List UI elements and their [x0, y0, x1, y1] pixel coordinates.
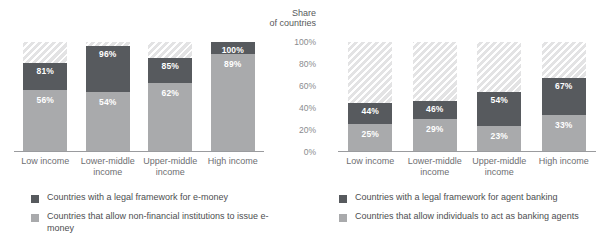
axis-baseline	[338, 151, 596, 152]
bar-value-label: 67%	[542, 82, 586, 91]
legend-item[interactable]: Countries that allow individuals to act …	[338, 211, 606, 223]
bar-group-agent-banking: 44%25%46%29%54%23%67%33%	[338, 42, 596, 151]
category-label: Low income	[341, 156, 400, 178]
y-axis-tick: 0%	[304, 147, 316, 157]
bar-slot: 85%62%	[142, 42, 200, 151]
bar-slot: 54%23%	[470, 42, 529, 151]
bar-segment-upper[interactable]: 96%	[86, 46, 130, 92]
legend-agent-banking: Countries with a legal framework for age…	[338, 192, 606, 230]
y-axis-tick: 40%	[299, 103, 316, 113]
bar-segment-upper[interactable]: 100%	[211, 42, 255, 54]
y-axis-tick: 60%	[299, 81, 316, 91]
bar-segment-lower[interactable]: 29%	[413, 119, 457, 151]
bar-value-label: 56%	[23, 96, 67, 105]
bar-segment-upper[interactable]: 54%	[477, 92, 521, 126]
bar-segment-lower[interactable]: 23%	[477, 126, 521, 151]
bar-value-label: 96%	[86, 50, 130, 59]
chart-panel-e-money: 81%56%96%54%85%62%100%89% Low incomeLowe…	[0, 0, 272, 182]
bar-segment-lower[interactable]: 89%	[211, 54, 255, 151]
bar-segment-remainder	[348, 42, 392, 103]
legend-swatch-icon	[338, 194, 348, 204]
chart-panel-agent-banking: 44%25%46%29%54%23%67%33% Low incomeLower…	[318, 0, 606, 182]
category-labels-agent-banking: Low incomeLower-middle incomeUpper-middl…	[338, 156, 596, 178]
bar-group-e-money: 81%56%96%54%85%62%100%89%	[14, 42, 264, 151]
bar-slot: 81%56%	[17, 42, 75, 151]
category-label: Lower-middle income	[79, 156, 137, 178]
bar-segment-remainder	[413, 42, 457, 101]
bar-segment-lower[interactable]: 54%	[86, 92, 130, 151]
bar-slot: 46%29%	[405, 42, 464, 151]
category-labels-e-money: Low incomeLower-middle incomeUpper-middl…	[14, 156, 264, 178]
bar-value-label: 89%	[211, 60, 255, 69]
category-label: Upper-middle income	[142, 156, 200, 178]
bar-slot: 100%89%	[204, 42, 262, 151]
bar-segment-upper[interactable]: 44%	[348, 103, 392, 124]
stacked-bar[interactable]: 44%25%	[348, 42, 392, 151]
stacked-bar[interactable]: 85%62%	[148, 42, 192, 151]
legend-label: Countries that allow non-financial insti…	[47, 211, 280, 234]
y-axis-tick: 20%	[299, 125, 316, 135]
bar-value-label: 33%	[542, 121, 586, 130]
bar-slot: 44%25%	[341, 42, 400, 151]
bar-value-label: 23%	[477, 132, 521, 141]
stacked-bar[interactable]: 67%33%	[542, 42, 586, 151]
legend-label: Countries that allow individuals to act …	[355, 211, 579, 223]
category-label: Low income	[17, 156, 75, 178]
bar-value-label: 44%	[348, 107, 392, 116]
stacked-bar[interactable]: 46%29%	[413, 42, 457, 151]
bar-value-label: 54%	[86, 98, 130, 107]
stacked-bar[interactable]: 100%89%	[211, 42, 255, 151]
y-axis-tick: 100%	[294, 37, 316, 47]
category-label: Lower-middle income	[405, 156, 464, 178]
category-label: High income	[204, 156, 262, 178]
bar-segment-upper[interactable]: 81%	[23, 63, 67, 90]
y-axis-tick: 80%	[299, 59, 316, 69]
legend-swatch-icon	[30, 194, 40, 204]
bar-segment-lower[interactable]: 56%	[23, 90, 67, 151]
legend-item[interactable]: Countries that allow non-financial insti…	[30, 211, 280, 234]
legend-swatch-icon	[30, 213, 40, 223]
y-axis: Shareof countries 100%80%60%40%20%0%	[262, 0, 318, 182]
legend-swatch-icon	[338, 213, 348, 223]
bar-slot: 96%54%	[79, 42, 137, 151]
chart-figure: 81%56%96%54%85%62%100%89% Low incomeLowe…	[0, 0, 606, 248]
y-axis-title: Shareof countries	[269, 8, 316, 28]
bar-value-label: 46%	[413, 105, 457, 114]
bar-segment-upper[interactable]: 46%	[413, 101, 457, 120]
y-axis-title-line1: Share	[292, 8, 316, 18]
bar-value-label: 25%	[348, 130, 392, 139]
category-label: Upper-middle income	[470, 156, 529, 178]
bar-segment-lower[interactable]: 33%	[542, 115, 586, 151]
bar-slot: 67%33%	[534, 42, 593, 151]
bar-segment-remainder	[542, 42, 586, 78]
bar-segment-remainder	[148, 42, 192, 58]
bar-value-label: 29%	[413, 125, 457, 134]
bar-segment-lower[interactable]: 62%	[148, 83, 192, 151]
y-axis-title-line2: of countries	[269, 18, 316, 28]
stacked-bar[interactable]: 54%23%	[477, 42, 521, 151]
legend-item[interactable]: Countries with a legal framework for e-m…	[30, 192, 280, 204]
bar-value-label: 85%	[148, 62, 192, 71]
stacked-bar[interactable]: 96%54%	[86, 42, 130, 151]
bar-value-label: 81%	[23, 67, 67, 76]
bar-segment-remainder	[23, 42, 67, 63]
stacked-bar[interactable]: 81%56%	[23, 42, 67, 151]
plot-area-e-money: 81%56%96%54%85%62%100%89%	[14, 42, 264, 152]
axis-baseline	[14, 151, 264, 152]
plot-area-agent-banking: 44%25%46%29%54%23%67%33%	[338, 42, 596, 152]
bar-segment-upper[interactable]: 67%	[542, 78, 586, 115]
bar-value-label: 54%	[477, 96, 521, 105]
category-label: High income	[534, 156, 593, 178]
legend-e-money: Countries with a legal framework for e-m…	[30, 192, 280, 241]
bar-segment-remainder	[477, 42, 521, 92]
legend-item[interactable]: Countries with a legal framework for age…	[338, 192, 606, 204]
bar-segment-upper[interactable]: 85%	[148, 58, 192, 83]
legend-label: Countries with a legal framework for e-m…	[47, 192, 228, 204]
legend-label: Countries with a legal framework for age…	[355, 192, 558, 204]
bar-value-label: 62%	[148, 89, 192, 98]
bar-segment-lower[interactable]: 25%	[348, 124, 392, 151]
